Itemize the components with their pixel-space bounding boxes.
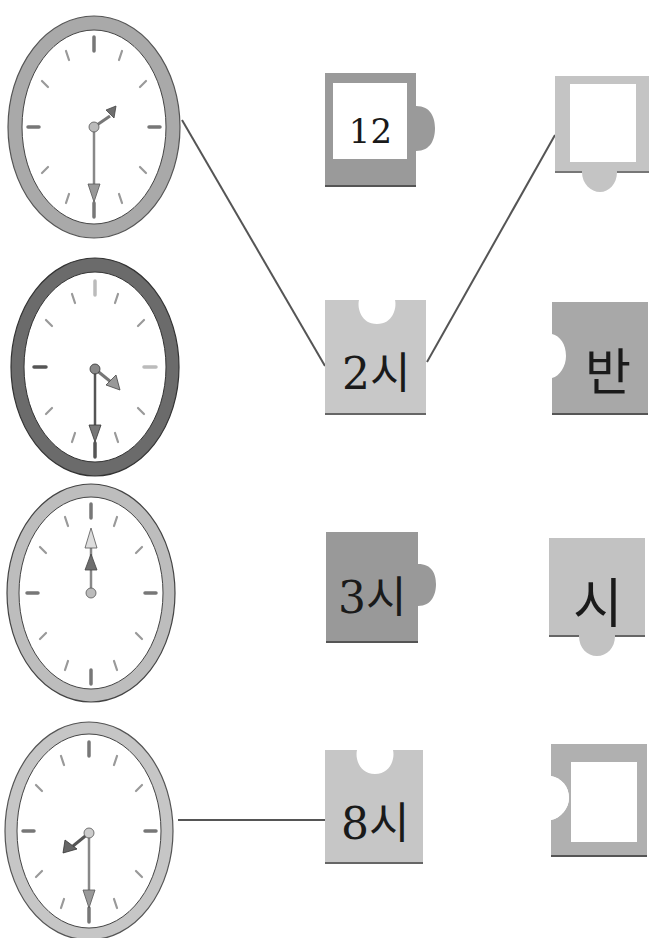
piece-label: 12 (325, 111, 416, 151)
puzzle-piece-8si[interactable]: 8시 (325, 750, 425, 865)
puzzle-piece-12[interactable]: 12 (325, 73, 437, 187)
puzzle-piece-empty-bottom[interactable] (551, 744, 649, 858)
clock-3-30[interactable] (10, 257, 180, 477)
piece-label: 시 (549, 560, 647, 639)
clock-8-30[interactable] (3, 718, 179, 938)
clock-face-icon (3, 718, 179, 938)
clock-12-00[interactable] (5, 480, 179, 702)
puzzle-shape-icon (551, 744, 649, 858)
puzzle-piece-ban[interactable]: 반 (552, 302, 650, 416)
puzzle-piece-si[interactable]: 시 (549, 538, 647, 660)
piece-label: 8시 (325, 788, 425, 852)
connector-clock1-to-2si (182, 120, 325, 366)
clock-face-icon (5, 480, 179, 702)
puzzle-piece-3si[interactable]: 3시 (326, 532, 438, 644)
clock-face-icon (10, 257, 180, 477)
puzzle-shape-icon (555, 76, 651, 198)
puzzle-piece-empty-top[interactable] (555, 76, 651, 198)
piece-label: 2시 (325, 338, 427, 402)
clock-face-icon (6, 14, 182, 240)
piece-label: 반 (566, 332, 650, 404)
clock-2-30[interactable] (6, 14, 182, 240)
piece-label: 3시 (326, 562, 418, 626)
connector-2si-to-empty-top (427, 135, 555, 362)
puzzle-piece-2si[interactable]: 2시 (325, 300, 427, 416)
